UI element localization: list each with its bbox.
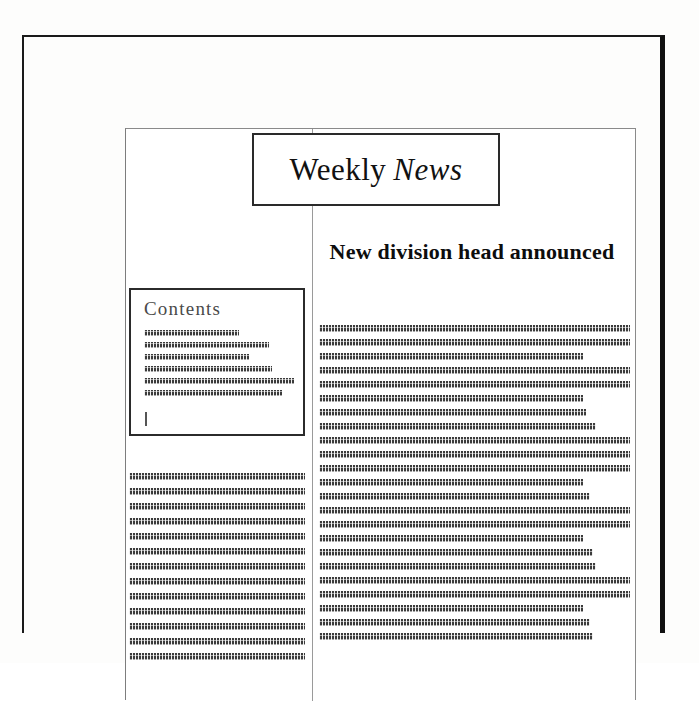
masthead-roman-word: Weekly xyxy=(289,152,386,187)
text-cursor-caret xyxy=(145,412,147,426)
article-headline: New division head announced xyxy=(322,237,622,266)
greeked-text-line xyxy=(319,479,583,486)
newsletter-page: WeeklyNews New division head announced C… xyxy=(125,128,636,700)
greeked-text-line xyxy=(319,451,630,458)
greeked-text-line xyxy=(319,423,596,430)
greeked-text-line xyxy=(319,409,586,416)
greeked-text-line xyxy=(319,563,596,570)
greeked-text-line xyxy=(144,366,272,372)
contents-entry-lines xyxy=(144,330,294,402)
greeked-text-line xyxy=(129,503,305,510)
greeked-text-line xyxy=(319,367,630,374)
greeked-text-line xyxy=(319,549,593,556)
document-window-frame: WeeklyNews New division head announced C… xyxy=(22,35,665,633)
greeked-text-line xyxy=(129,608,305,615)
greeked-text-line xyxy=(319,325,630,332)
greeked-text-line xyxy=(129,593,305,600)
greeked-text-line xyxy=(319,353,583,360)
greeked-text-line xyxy=(129,473,305,480)
masthead-box[interactable]: WeeklyNews xyxy=(252,133,500,206)
greeked-text-line xyxy=(319,381,630,388)
greeked-text-line xyxy=(319,493,590,500)
greeked-text-line xyxy=(129,518,305,525)
column-divider-rule xyxy=(312,129,313,701)
greeked-text-line xyxy=(319,507,630,514)
greeked-text-line xyxy=(129,488,305,495)
right-body-column xyxy=(319,325,630,647)
greeked-text-line xyxy=(319,591,630,598)
greeked-text-line xyxy=(319,339,630,346)
greeked-text-line xyxy=(319,521,630,528)
greeked-text-line xyxy=(319,605,583,612)
greeked-text-line xyxy=(144,390,282,396)
greeked-text-line xyxy=(144,330,239,336)
greeked-text-line xyxy=(129,623,305,630)
greeked-text-line xyxy=(319,465,630,472)
contents-box[interactable]: Contents xyxy=(129,288,305,436)
greeked-text-line xyxy=(319,437,630,444)
greeked-text-line xyxy=(129,563,305,570)
contents-heading: Contents xyxy=(144,298,221,320)
masthead-italic-word: News xyxy=(386,152,462,187)
greeked-text-line xyxy=(129,533,305,540)
masthead-title: WeeklyNews xyxy=(289,152,462,188)
left-body-column xyxy=(129,473,305,668)
greeked-text-line xyxy=(144,354,249,360)
greeked-text-line xyxy=(319,535,583,542)
greeked-text-line xyxy=(319,577,630,584)
greeked-text-line xyxy=(129,548,305,555)
greeked-text-line xyxy=(144,342,269,348)
greeked-text-line xyxy=(129,638,305,645)
greeked-text-line xyxy=(129,653,305,660)
greeked-text-line xyxy=(319,395,583,402)
greeked-text-line xyxy=(319,619,590,626)
greeked-text-line xyxy=(319,633,593,640)
greeked-text-line xyxy=(144,378,294,384)
greeked-text-line xyxy=(129,578,305,585)
